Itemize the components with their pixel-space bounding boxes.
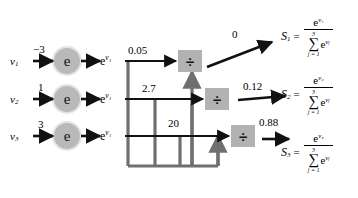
softmax-formula-3: S3 = ev₃ 3 ∑ j = 1 evⱼ xyxy=(281,132,333,173)
input-label-2: v2 xyxy=(10,94,18,106)
exp-node-3: e xyxy=(54,123,80,149)
formula-fraction-1: ev₁ 3 ∑ j = 1 evⱼ xyxy=(304,16,334,57)
formula-fraction-2: ev₂ 3 ∑ j = 1 evⱼ xyxy=(304,74,334,115)
formula-lhs-3: S3 xyxy=(281,145,291,160)
bus-value-1: 0.05 xyxy=(128,45,147,56)
input-label-3: v3 xyxy=(10,131,18,143)
exp-output-1: ev₁ xyxy=(100,54,111,67)
formula-denominator-1: 3 ∑ j = 1 evⱼ xyxy=(304,30,334,57)
output-value-2: 0.12 xyxy=(243,81,262,92)
formula-lhs-2: S2 xyxy=(281,87,291,102)
exp-output-2: ev₁ xyxy=(100,92,111,105)
formula-fraction-3: ev₃ 3 ∑ j = 1 evⱼ xyxy=(304,132,334,173)
bus-value-2: 2.7 xyxy=(142,83,156,94)
bus-value-3: 20 xyxy=(168,118,179,129)
formula-numerator-1: ev₁ xyxy=(309,16,327,29)
exp-output-3: ev₁ xyxy=(100,129,111,142)
formula-lhs-1: S1 xyxy=(281,29,291,44)
input-weight-2: 1 xyxy=(38,82,44,93)
formula-numerator-3: ev₃ xyxy=(309,132,327,145)
output-value-1: 0 xyxy=(232,29,238,40)
softmax-formula-2: S2 = ev₂ 3 ∑ j = 1 evⱼ xyxy=(281,74,333,115)
formula-denominator-2: 3 ∑ j = 1 evⱼ xyxy=(304,88,334,115)
divide-node-2: ÷ xyxy=(205,88,229,110)
diagram-labels: v1 −3 e ev₁ 0.05 ÷ 0 v2 1 e ev₁ 2.7 ÷ 0.… xyxy=(0,0,358,198)
divide-node-1: ÷ xyxy=(178,50,202,72)
input-weight-1: −3 xyxy=(33,44,45,55)
formula-denominator-3: 3 ∑ j = 1 evⱼ xyxy=(304,146,334,173)
exp-node-2: e xyxy=(54,86,80,112)
input-weight-3: 3 xyxy=(38,119,44,130)
output-value-3: 0.88 xyxy=(259,117,278,128)
exp-node-1: e xyxy=(54,48,80,74)
softmax-diagram: v1 −3 e ev₁ 0.05 ÷ 0 v2 1 e ev₁ 2.7 ÷ 0.… xyxy=(0,0,358,198)
input-label-1: v1 xyxy=(10,56,18,68)
formula-numerator-2: ev₂ xyxy=(309,74,327,87)
divide-node-3: ÷ xyxy=(231,125,255,147)
softmax-formula-1: S1 = ev₁ 3 ∑ j = 1 evⱼ xyxy=(281,16,333,57)
